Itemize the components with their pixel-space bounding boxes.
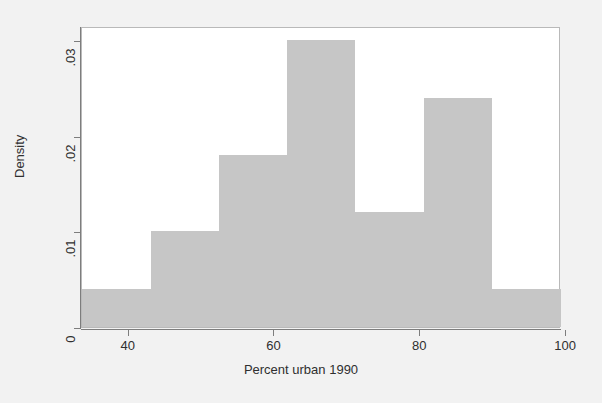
x-axis-tick-label: 80 xyxy=(389,338,449,353)
x-axis-tick-label: 60 xyxy=(243,338,303,353)
histogram-bar xyxy=(219,155,287,327)
x-axis-tick-mark xyxy=(273,330,274,336)
histogram-bar xyxy=(151,231,220,327)
x-axis-tick-label: 40 xyxy=(98,338,158,353)
plot-area xyxy=(81,27,560,328)
histogram-bar xyxy=(424,98,493,327)
y-axis-tick-mark xyxy=(74,137,80,138)
y-axis-tick-label: .02 xyxy=(63,144,78,162)
x-axis-tick-label: 100 xyxy=(535,338,595,353)
y-axis-tick-mark xyxy=(74,41,80,42)
y-axis-title: Density xyxy=(12,135,27,178)
y-axis-tick-label: 0 xyxy=(63,336,78,343)
histogram-bar xyxy=(82,289,151,327)
y-axis-line xyxy=(80,27,81,329)
histogram-figure: 0.01.02.03 406080100 Density Percent urb… xyxy=(0,0,602,403)
x-axis-tick-mark xyxy=(419,330,420,336)
histogram-bar xyxy=(287,40,356,327)
y-axis-tick-label: .01 xyxy=(63,240,78,258)
y-axis-tick-mark xyxy=(74,328,80,329)
x-axis-title: Percent urban 1990 xyxy=(0,362,602,377)
histogram-bar xyxy=(492,289,561,327)
x-axis-tick-mark xyxy=(565,330,566,336)
histogram-bars xyxy=(82,28,559,327)
y-axis-tick-label: .03 xyxy=(63,49,78,67)
x-axis-tick-mark xyxy=(128,330,129,336)
x-axis-line xyxy=(81,329,561,330)
histogram-bar xyxy=(355,212,424,327)
y-axis-tick-mark xyxy=(74,232,80,233)
